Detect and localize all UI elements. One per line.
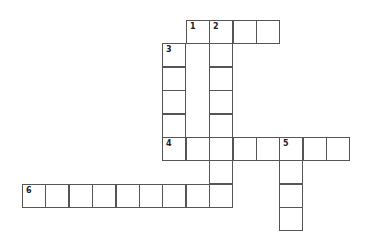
crossword-cell[interactable]: 5: [279, 137, 303, 161]
crossword-cell[interactable]: [209, 114, 233, 138]
crossword-cell[interactable]: [162, 67, 186, 91]
crossword-cell[interactable]: [209, 137, 233, 161]
crossword-cell[interactable]: 4: [162, 137, 186, 161]
crossword-cell[interactable]: [186, 184, 210, 208]
crossword-cell[interactable]: [279, 184, 303, 208]
clue-number: 6: [26, 186, 32, 195]
crossword-cell[interactable]: 3: [162, 43, 186, 67]
crossword-cell[interactable]: [233, 20, 257, 44]
crossword-cell[interactable]: [162, 114, 186, 138]
crossword-cell[interactable]: [209, 184, 233, 208]
crossword-cell[interactable]: [92, 184, 116, 208]
crossword-cell[interactable]: [162, 184, 186, 208]
crossword-cell[interactable]: [256, 137, 280, 161]
crossword-cell[interactable]: [45, 184, 69, 208]
clue-number: 5: [283, 139, 289, 148]
crossword-cell[interactable]: [279, 160, 303, 184]
crossword-cell[interactable]: [326, 137, 350, 161]
clue-number: 1: [190, 22, 196, 31]
crossword-cell[interactable]: 1: [186, 20, 210, 44]
crossword-cell[interactable]: [139, 184, 163, 208]
crossword-cell[interactable]: [186, 137, 210, 161]
crossword-cell[interactable]: [209, 90, 233, 114]
crossword-cell[interactable]: [279, 207, 303, 231]
crossword-cell[interactable]: [209, 43, 233, 67]
crossword-cell[interactable]: [116, 184, 140, 208]
clue-number: 4: [166, 139, 172, 148]
crossword-cell[interactable]: [233, 137, 257, 161]
crossword-cell[interactable]: 2: [209, 20, 233, 44]
crossword-cell[interactable]: [162, 90, 186, 114]
crossword-cell[interactable]: [256, 20, 280, 44]
crossword-cell[interactable]: [303, 137, 327, 161]
clue-number: 3: [166, 45, 172, 54]
crossword-cell[interactable]: [69, 184, 93, 208]
clue-number: 2: [213, 22, 219, 31]
crossword-cell[interactable]: 6: [22, 184, 46, 208]
crossword-cell[interactable]: [209, 160, 233, 184]
crossword-cell[interactable]: [209, 67, 233, 91]
